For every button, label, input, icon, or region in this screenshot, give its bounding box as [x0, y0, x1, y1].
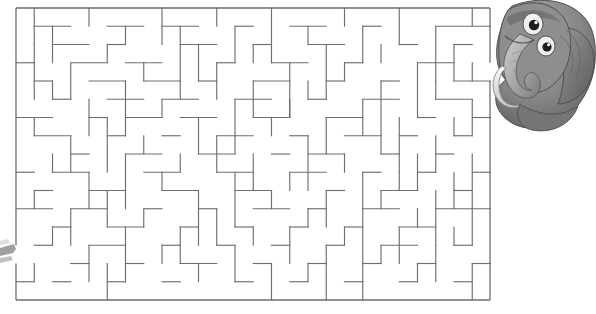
worksheet-canvas	[0, 0, 596, 314]
maze-puzzle[interactable]	[0, 0, 596, 314]
